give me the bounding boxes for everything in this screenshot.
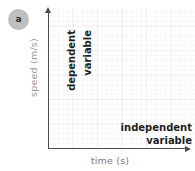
independent-variable-line-2: variable xyxy=(121,134,192,147)
dependent-variable-line-2: variable xyxy=(81,30,95,108)
figure-panel: a speed (m/s) time (s) dependent variabl… xyxy=(0,0,195,171)
x-axis-title: time (s) xyxy=(70,155,150,166)
panel-label-badge: a xyxy=(8,9,29,30)
y-axis-title: speed (m/s) xyxy=(28,23,39,113)
dependent-variable-line-1: dependent xyxy=(65,30,79,108)
independent-variable-line-1: independent xyxy=(121,121,192,134)
x-axis-line xyxy=(48,148,186,149)
y-axis-line xyxy=(48,12,49,149)
independent-variable-annotation: independent variable xyxy=(121,121,192,147)
dependent-variable-annotation: dependent variable xyxy=(50,12,92,90)
